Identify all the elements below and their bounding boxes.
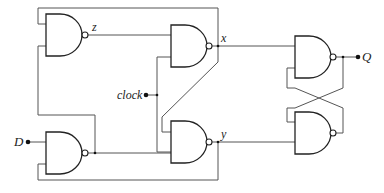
nand-gate-q	[295, 36, 336, 78]
nand-gate-qbar	[295, 112, 336, 154]
nand-gate-y	[171, 121, 212, 163]
terminal-clock	[144, 93, 149, 98]
label-q: Q	[362, 49, 372, 64]
wire-clock-to-g2	[157, 57, 171, 95]
label-x: x	[220, 31, 227, 45]
junction-y	[217, 141, 220, 144]
junction-q	[342, 56, 345, 59]
nand-gate-x	[171, 25, 212, 67]
nand-gate-d	[46, 132, 88, 174]
nand-gate-z	[46, 14, 88, 56]
junction-clock	[156, 94, 159, 97]
label-y: y	[220, 127, 227, 141]
circuit-diagram: z x y clock D Q	[0, 0, 384, 193]
junction-g4out	[94, 152, 97, 155]
junction-x	[217, 45, 220, 48]
label-d: D	[13, 134, 24, 149]
label-clock: clock	[117, 88, 143, 102]
wire-clock	[147, 95, 171, 152]
terminal-d	[26, 140, 31, 145]
terminal-q	[356, 55, 361, 60]
label-z: z	[91, 20, 97, 34]
